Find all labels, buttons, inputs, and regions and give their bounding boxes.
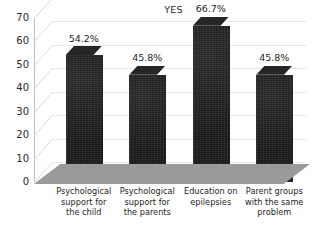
y-axis-tick-label: 60 (16, 36, 29, 46)
gridline-depth-edge (34, 115, 53, 136)
bar-top-face (129, 66, 165, 75)
bar-value-label: 45.8% (259, 53, 289, 63)
category-label-line: Psychological (48, 186, 120, 197)
bar-front-face (193, 26, 230, 182)
bar: 54.2% (66, 45, 102, 182)
category-label-line: epilepsies (175, 197, 247, 208)
bar-top-face (193, 17, 229, 26)
y-axis-tick-label: 40 (16, 83, 29, 93)
bar-chart: YES 010203040506070 54.2%45.8%66.7%45.8%… (0, 0, 319, 230)
chart-floor (34, 164, 310, 184)
bar-top-face (66, 46, 102, 55)
y-axis-tick-label: 30 (16, 107, 29, 117)
gridline-depth-edge (34, 92, 53, 113)
bar: 66.7% (193, 16, 229, 182)
category-label-line: the child (48, 207, 120, 218)
chart-title: YES (0, 4, 319, 15)
gridline-depth-edge (34, 45, 53, 66)
category-label-line: Parent groups (239, 186, 311, 197)
x-axis-category-label: Psychologicalsupport forthe child (48, 186, 120, 218)
gridline-depth-edge (34, 139, 53, 160)
gridline-depth-edge (34, 68, 53, 89)
y-axis-tick-label: 70 (16, 13, 29, 23)
y-axis-tick-label: 50 (16, 60, 29, 70)
floor-surface (34, 164, 310, 184)
bar-value-label: 66.7% (196, 4, 226, 14)
category-label-line: support for (48, 197, 120, 208)
category-label-line: Psychological (112, 186, 184, 197)
plot-area: 010203040506070 54.2%45.8%66.7%45.8% (34, 18, 306, 182)
y-axis-tick-label: 20 (16, 130, 29, 140)
x-axis-category-label: Psychologicalsupport forthe parents (112, 186, 184, 218)
gridline (52, 21, 306, 22)
y-axis-tick-label: 0 (23, 177, 29, 187)
category-label-line: the parents (112, 207, 184, 218)
y-axis-tick-label: 10 (16, 154, 29, 164)
bar-front-face (66, 55, 103, 182)
gridline-depth-edge (34, 21, 53, 42)
category-label-line: with the same (239, 197, 311, 208)
category-label-line: support for (112, 197, 184, 208)
category-label-line: Education on (175, 186, 247, 197)
x-axis-category-label: Education onepilepsies (175, 186, 247, 207)
x-axis-category-labels: Psychologicalsupport forthe childPsychol… (34, 186, 310, 230)
bar-value-label: 45.8% (132, 53, 162, 63)
bar-value-label: 54.2% (69, 34, 99, 44)
x-axis-category-label: Parent groupswith the sameproblem (239, 186, 311, 218)
bar-top-face (256, 66, 292, 75)
category-label-line: problem (239, 207, 311, 218)
